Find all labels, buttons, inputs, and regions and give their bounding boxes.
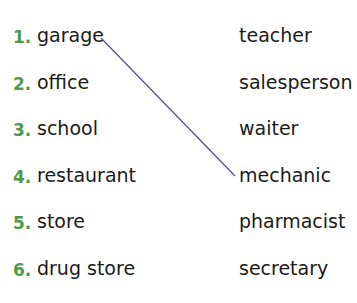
match-row-6: 6. drug store secretary [0, 257, 357, 287]
match-row-5: 5. store pharmacist [0, 210, 357, 240]
item-number: 3. [13, 120, 31, 140]
job-teacher[interactable]: teacher [239, 24, 312, 46]
place-drug-store[interactable]: drug store [37, 257, 135, 279]
match-row-4: 4. restaurant mechanic [0, 164, 357, 194]
place-garage[interactable]: garage [37, 24, 104, 46]
item-number: 4. [13, 167, 31, 187]
match-row-2: 2. office salesperson [0, 71, 357, 101]
place-office[interactable]: office [37, 71, 89, 93]
item-number: 5. [13, 213, 31, 233]
job-pharmacist[interactable]: pharmacist [239, 210, 345, 232]
job-mechanic[interactable]: mechanic [239, 164, 331, 186]
place-school[interactable]: school [37, 117, 98, 139]
item-number: 2. [13, 74, 31, 94]
item-number: 1. [13, 27, 31, 47]
job-waiter[interactable]: waiter [239, 117, 298, 139]
match-line-garage-mechanic [101, 38, 235, 176]
job-secretary[interactable]: secretary [239, 257, 328, 279]
item-number: 6. [13, 260, 31, 280]
place-restaurant[interactable]: restaurant [37, 164, 136, 186]
match-row-3: 3. school waiter [0, 117, 357, 147]
job-salesperson[interactable]: salesperson [239, 71, 353, 93]
place-store[interactable]: store [37, 210, 85, 232]
match-row-1: 1. garage teacher [0, 24, 357, 54]
